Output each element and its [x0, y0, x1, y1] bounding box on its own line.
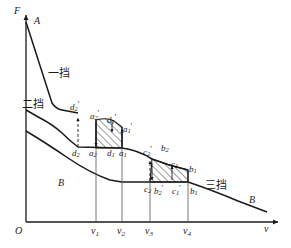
curve-third-gear — [26, 131, 267, 212]
x-axis-label: v — [264, 224, 268, 234]
x-tick-label-v1: v1 — [91, 226, 99, 238]
y-axis-label: F — [14, 6, 20, 16]
x-tick-label-v2: v2 — [117, 226, 125, 238]
figure-svg — [0, 0, 291, 248]
point-label-a2: a2 — [89, 149, 97, 159]
point-label-b2: b2 — [161, 144, 169, 154]
gear-label-first: 一挡 — [48, 68, 70, 79]
point-label-d1: d1 — [107, 149, 115, 159]
point-label-d2-prime: d2' — [70, 101, 79, 112]
point-label-a1-prime: a1' — [123, 123, 132, 134]
point-label-d1-prime: d1' — [107, 114, 116, 125]
origin-label: O — [15, 226, 22, 236]
x-tick-label-v3: v3 — [145, 226, 153, 238]
point-label-c1-prime: c1' — [172, 185, 181, 196]
point-label-a2-prime: a2' — [90, 110, 99, 121]
point-label-d2: d2 — [72, 149, 80, 159]
x-tick-label-v4: v4 — [183, 226, 191, 238]
point-label-b1-prime: b1' — [190, 185, 199, 196]
point-label-c2-prime: c2' — [143, 146, 152, 157]
point-label-B-right: B — [249, 195, 255, 205]
gear-label-third: 三挡 — [205, 180, 227, 191]
gear-label-second: 二挡 — [22, 99, 44, 110]
point-label-b1: b1 — [189, 165, 197, 175]
point-label-c2: c2 — [144, 185, 151, 195]
figure-root: F v O A B B 一挡 二挡 三挡 d2' a2' d1' a1' d2 … — [0, 0, 291, 248]
point-label-B-left: B — [58, 178, 64, 188]
point-label-a1: a1 — [119, 149, 127, 159]
point-label-b2-prime: b2' — [154, 185, 163, 196]
point-label-c1: c1 — [171, 160, 178, 170]
hatched-region-b — [150, 159, 188, 182]
point-label-A: A — [34, 16, 40, 26]
